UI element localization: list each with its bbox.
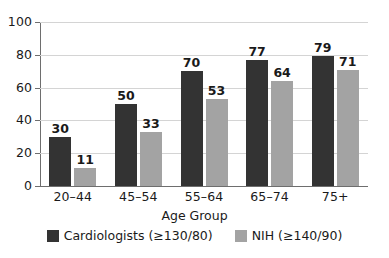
bar-group-5: 7971	[312, 22, 359, 186]
bar-group-1: 3011	[49, 22, 96, 186]
bar-value-label-cardiologists-1: 30	[40, 122, 80, 135]
legend-label-nih: NIH (≥140/90)	[252, 229, 343, 242]
y-axis-label-0: 0	[0, 180, 32, 192]
x-axis-label-1: 20–44	[38, 190, 108, 203]
plot-area: 30115033705377647971	[40, 22, 368, 186]
x-axis-title: Age Group	[0, 208, 389, 223]
y-axis-label-100: 100	[0, 16, 32, 28]
bar-value-label-cardiologists-2: 50	[106, 89, 146, 102]
bar-chart: 020406080100 30115033705377647971 20–444…	[0, 0, 389, 258]
bar-nih-3[interactable]	[206, 99, 228, 186]
y-axis-label-20: 20	[0, 147, 32, 159]
bar-group-2: 5033	[115, 22, 162, 186]
legend-swatch-icon-nih	[235, 230, 247, 242]
legend-item-cardiologists[interactable]: Cardiologists (≥130/80)	[47, 229, 213, 242]
gridline-0	[40, 186, 368, 187]
bar-value-label-nih-4: 64	[262, 66, 302, 79]
y-axis-label-40: 40	[0, 114, 32, 126]
bar-group-3: 7053	[181, 22, 228, 186]
bar-value-label-cardiologists-3: 70	[172, 56, 212, 69]
bar-nih-4[interactable]	[271, 81, 293, 186]
bar-value-label-nih-3: 53	[197, 84, 237, 97]
bar-nih-2[interactable]	[140, 132, 162, 186]
x-axis-label-2: 45–54	[103, 190, 173, 203]
bar-value-label-nih-2: 33	[131, 117, 171, 130]
y-axis-label-60: 60	[0, 82, 32, 94]
x-axis-label-3: 55–64	[169, 190, 239, 203]
y-axis-label-80: 80	[0, 49, 32, 61]
legend: Cardiologists (≥130/80) NIH (≥140/90)	[0, 229, 389, 242]
bar-value-label-nih-1: 11	[65, 153, 105, 166]
legend-swatch-icon-cardiologists	[47, 230, 59, 242]
bar-nih-5[interactable]	[337, 70, 359, 186]
bar-group-4: 7764	[246, 22, 293, 186]
x-axis-label-4: 65–74	[235, 190, 305, 203]
bar-nih-1[interactable]	[74, 168, 96, 186]
bar-cardiologists-5[interactable]	[312, 56, 334, 186]
x-axis-label-5: 75+	[300, 190, 370, 203]
legend-item-nih[interactable]: NIH (≥140/90)	[235, 229, 343, 242]
bar-value-label-cardiologists-5: 79	[303, 41, 343, 54]
legend-label-cardiologists: Cardiologists (≥130/80)	[64, 229, 213, 242]
bar-value-label-cardiologists-4: 77	[237, 45, 277, 58]
bar-value-label-nih-5: 71	[328, 55, 368, 68]
